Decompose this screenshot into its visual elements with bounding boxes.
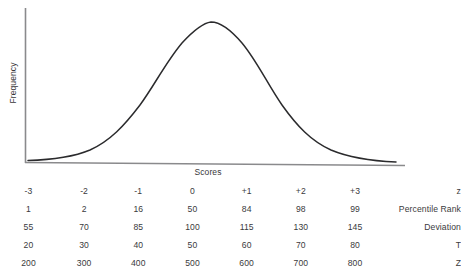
table-row: 200 300 400 500 600 700 800 Z — [0, 254, 461, 272]
score-table-body: -3 -2 -1 0 +1 +2 +3 z 1 2 16 50 84 98 99… — [0, 183, 461, 272]
cell-value: 60 — [220, 236, 274, 254]
normal-curve-score-conversion-figure: Frequency Scores -3 -2 -1 0 +1 +2 +3 z 1… — [0, 0, 461, 272]
cell-spacer — [382, 236, 389, 254]
cell-spacer — [382, 219, 389, 237]
row-label: z — [390, 183, 461, 201]
cell-value: 1 — [0, 201, 57, 219]
cell-value: 98 — [274, 201, 328, 219]
cell-value: 16 — [111, 201, 165, 219]
cell-spacer — [382, 201, 389, 219]
cell-value: 50 — [165, 201, 219, 219]
cell-value: 130 — [274, 219, 328, 237]
cell-value: 70 — [57, 219, 111, 237]
cell-value: 500 — [165, 254, 219, 272]
row-label: Percentile Rank — [390, 201, 461, 219]
cell-value: 2 — [57, 201, 111, 219]
cell-value: 145 — [328, 219, 382, 237]
cell-value: 115 — [220, 219, 274, 237]
cell-value: 300 — [57, 254, 111, 272]
cell-spacer — [382, 254, 389, 272]
table-row: 20 30 40 50 60 70 80 T — [0, 236, 461, 254]
cell-value: 600 — [220, 254, 274, 272]
cell-value: 40 — [111, 236, 165, 254]
cell-value: 50 — [165, 236, 219, 254]
cell-value: -2 — [57, 183, 111, 201]
cell-value: 80 — [328, 236, 382, 254]
x-axis-line — [25, 163, 405, 166]
row-label: Z — [390, 254, 461, 272]
bell-curve-chart: Frequency Scores — [0, 0, 461, 180]
cell-spacer — [382, 183, 389, 201]
cell-value: -3 — [0, 183, 57, 201]
cell-value: 700 — [274, 254, 328, 272]
cell-value: 70 — [274, 236, 328, 254]
score-conversion-table: -3 -2 -1 0 +1 +2 +3 z 1 2 16 50 84 98 99… — [0, 183, 461, 272]
cell-value: -1 — [111, 183, 165, 201]
table-row: -3 -2 -1 0 +1 +2 +3 z — [0, 183, 461, 201]
row-label: Deviation — [390, 219, 461, 237]
cell-value: 99 — [328, 201, 382, 219]
cell-value: 200 — [0, 254, 57, 272]
cell-value: +1 — [220, 183, 274, 201]
cell-value: 55 — [0, 219, 57, 237]
cell-value: 100 — [165, 219, 219, 237]
table-row: 55 70 85 100 115 130 145 Deviation — [0, 219, 461, 237]
table-row: 1 2 16 50 84 98 99 Percentile Rank — [0, 201, 461, 219]
normal-distribution-curve — [28, 22, 396, 162]
cell-value: 30 — [57, 236, 111, 254]
cell-value: +2 — [274, 183, 328, 201]
cell-value: 400 — [111, 254, 165, 272]
cell-value: +3 — [328, 183, 382, 201]
y-axis-label: Frequency — [8, 48, 18, 118]
distribution-curve-svg — [0, 0, 461, 180]
cell-value: 20 — [0, 236, 57, 254]
cell-value: 0 — [165, 183, 219, 201]
cell-value: 84 — [220, 201, 274, 219]
x-axis-label: Scores — [178, 167, 238, 177]
cell-value: 85 — [111, 219, 165, 237]
cell-value: 800 — [328, 254, 382, 272]
row-label: T — [390, 236, 461, 254]
